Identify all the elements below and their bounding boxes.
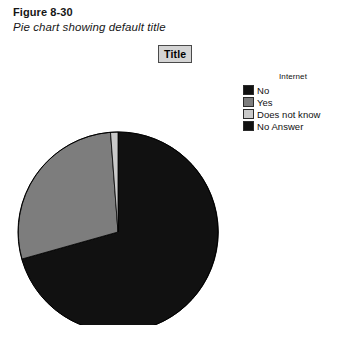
- figure-description: Pie chart showing default title: [13, 20, 243, 35]
- legend-swatch-yes: [243, 97, 254, 107]
- figure-number: Figure 8-30: [13, 5, 243, 19]
- pie-chart-area: Title Internet No Yes Does not know: [0, 36, 357, 345]
- legend-item-yes[interactable]: Yes: [243, 96, 355, 108]
- legend: Internet No Yes Does not know No Answer: [243, 72, 355, 132]
- chart-title-selection-box[interactable]: Title: [158, 45, 192, 63]
- legend-swatch-does-not-know: [243, 109, 254, 119]
- legend-label-does-not-know: Does not know: [257, 109, 321, 120]
- legend-item-does-not-know[interactable]: Does not know: [243, 108, 355, 120]
- legend-items: No Yes Does not know No Answer: [243, 84, 355, 132]
- legend-label-no: No: [257, 85, 269, 96]
- legend-item-no[interactable]: No: [243, 84, 355, 96]
- legend-title: Internet: [245, 72, 341, 82]
- chart-title-label: Title: [164, 48, 186, 60]
- legend-label-yes: Yes: [257, 97, 273, 108]
- legend-swatch-no: [243, 85, 254, 95]
- legend-item-no-answer[interactable]: No Answer: [243, 120, 355, 132]
- legend-swatch-no-answer: [243, 121, 254, 131]
- figure-caption: Figure 8-30 Pie chart showing default ti…: [13, 5, 243, 35]
- pie-graphic: [14, 69, 224, 325]
- chart-title[interactable]: Title: [158, 44, 192, 63]
- legend-label-no-answer: No Answer: [257, 121, 303, 132]
